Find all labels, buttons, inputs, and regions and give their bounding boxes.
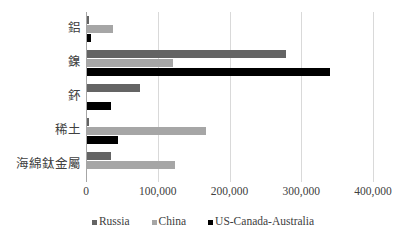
legend-label: US-Canada-Australia bbox=[215, 214, 314, 228]
x-tick-label: 200,000 bbox=[211, 184, 248, 198]
bar-group bbox=[86, 114, 373, 148]
bar-russia bbox=[87, 152, 111, 160]
bar-group bbox=[86, 80, 373, 114]
bar-us-canada-australia bbox=[87, 68, 330, 76]
category-label: 海綿鈦金屬 bbox=[16, 158, 81, 171]
legend-item[interactable]: China bbox=[152, 214, 186, 228]
legend-swatch-icon bbox=[152, 220, 157, 225]
plot-area bbox=[86, 12, 373, 182]
value-axis-tick-labels: 0100,000200,000300,000400,000 bbox=[0, 184, 406, 200]
bar-russia bbox=[87, 50, 286, 58]
legend-swatch-icon bbox=[92, 220, 97, 225]
bar-group bbox=[86, 46, 373, 80]
legend-item[interactable]: Russia bbox=[92, 214, 130, 228]
x-tick-label: 0 bbox=[83, 184, 89, 198]
chart-legend: RussiaChinaUS-Canada-Australia bbox=[0, 214, 406, 228]
x-tick-label: 100,000 bbox=[139, 184, 176, 198]
bar-china bbox=[87, 25, 113, 33]
category-label: 鋁 bbox=[68, 22, 81, 35]
category-label: 鈈 bbox=[68, 90, 81, 103]
gridline bbox=[373, 12, 374, 182]
x-tick-label: 400,000 bbox=[354, 184, 391, 198]
bar-russia bbox=[87, 118, 89, 126]
bar-russia bbox=[87, 16, 89, 24]
legend-label: China bbox=[159, 214, 186, 228]
bar-russia bbox=[87, 84, 140, 92]
category-label: 鎳 bbox=[68, 56, 81, 69]
bar-chart: 鋁鎳鈈稀土海綿鈦金屬 0100,000200,000300,000400,000… bbox=[0, 0, 406, 241]
bar-china bbox=[87, 161, 175, 169]
bar-us-canada-australia bbox=[87, 136, 118, 144]
legend-item[interactable]: US-Canada-Australia bbox=[208, 214, 314, 228]
category-label: 稀土 bbox=[55, 124, 81, 137]
bar-us-canada-australia bbox=[87, 102, 111, 110]
bar-group bbox=[86, 148, 373, 182]
bar-china bbox=[87, 127, 206, 135]
x-tick-label: 300,000 bbox=[283, 184, 320, 198]
legend-label: Russia bbox=[99, 214, 130, 228]
bar-china bbox=[87, 59, 173, 67]
bar-group bbox=[86, 12, 373, 46]
bar-us-canada-australia bbox=[87, 34, 91, 42]
legend-swatch-icon bbox=[208, 220, 213, 225]
